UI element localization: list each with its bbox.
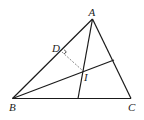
label-i: I — [83, 71, 89, 83]
label-c: C — [128, 101, 136, 113]
perpendicular-di — [62, 52, 83, 71]
label-d: D — [51, 42, 60, 54]
side-ca — [93, 19, 132, 99]
label-a: A — [88, 6, 96, 18]
bisector-b — [13, 60, 115, 99]
label-b: B — [9, 101, 16, 113]
right-angle-marker — [64, 50, 66, 54]
triangle-diagram: A B C D I — [0, 0, 144, 120]
